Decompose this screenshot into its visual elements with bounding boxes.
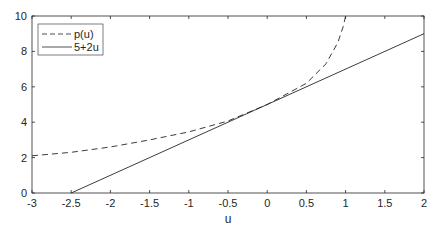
- x-tick-label: -1.5: [140, 197, 159, 209]
- legend-label-line: 5+2u: [74, 41, 99, 53]
- x-tick-label: -2.5: [62, 197, 81, 209]
- y-tick-label: 6: [21, 81, 27, 93]
- legend-label-p: p(u): [74, 28, 94, 40]
- y-tick-label: 2: [21, 152, 27, 164]
- x-tick-label: 1: [343, 197, 349, 209]
- x-tick-label: -0.5: [219, 197, 238, 209]
- x-tick-label: 0.5: [299, 197, 314, 209]
- y-tick-label: 4: [21, 116, 27, 128]
- legend: p(u) 5+2u: [38, 24, 103, 55]
- x-tick-label: 2: [421, 197, 427, 209]
- x-tick-label: -3: [27, 197, 37, 209]
- x-tick-label: 1.5: [377, 197, 392, 209]
- x-tick-label: -2: [106, 197, 116, 209]
- y-tick-label: 10: [15, 10, 27, 22]
- x-tick-label: -1: [184, 197, 194, 209]
- line-chart: -3-2.5-2-1.5-1-0.500.511.52 0246810 u p(…: [0, 0, 443, 234]
- y-tick-label: 8: [21, 45, 27, 57]
- y-tick-label: 0: [21, 187, 27, 199]
- x-tick-label: 0: [264, 197, 270, 209]
- x-axis-label: u: [225, 212, 232, 226]
